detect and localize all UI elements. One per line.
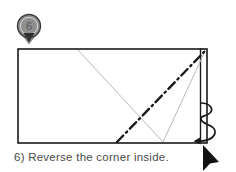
map-pin-icon bbox=[18, 15, 41, 45]
diagram-canvas: 6 6) Reverse the corner inside. bbox=[0, 0, 236, 172]
mouse-pointer-icon bbox=[203, 145, 219, 171]
origami-diagram bbox=[0, 0, 236, 172]
step-caption: 6) Reverse the corner inside. bbox=[14, 150, 204, 164]
paper-rectangle bbox=[18, 49, 207, 143]
